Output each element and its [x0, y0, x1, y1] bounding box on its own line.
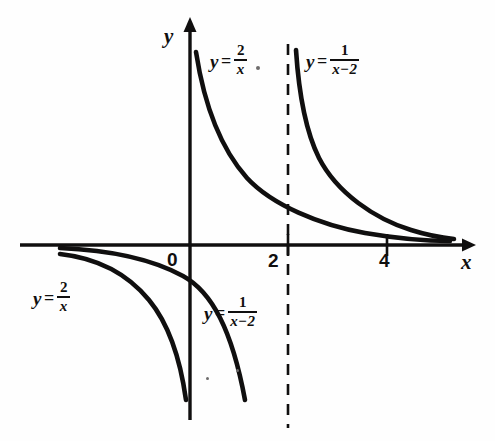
curve-label-2-over-x-upper: y = 2 x	[210, 44, 247, 78]
curve-2-over-x-lower-branch	[60, 254, 186, 400]
curve-label-lhs: y	[204, 304, 213, 323]
fraction: 2 x	[57, 280, 70, 314]
scan-speck	[256, 66, 260, 70]
fraction-numerator: 1	[237, 295, 249, 311]
scan-speck	[236, 369, 239, 372]
curve-label-equals: =	[219, 52, 234, 70]
curve-label-equals: =	[42, 289, 57, 307]
fraction-denominator: x−2	[330, 61, 359, 77]
y-axis-label: y	[164, 26, 173, 47]
fraction-numerator: 1	[339, 43, 351, 59]
x-tick-label-4: 4	[379, 251, 390, 270]
curve-label-lhs: y	[306, 52, 315, 71]
x-axis-label: x	[461, 252, 472, 273]
curve-label-equals: =	[315, 52, 330, 70]
curve-1-over-x-minus-2-upper-branch	[296, 50, 454, 239]
fraction-denominator: x	[58, 298, 70, 314]
fraction-denominator: x	[235, 61, 247, 77]
fraction-numerator: 2	[58, 280, 70, 296]
curve-label-lhs: y	[210, 52, 219, 71]
curve-label-equals: =	[213, 304, 228, 322]
fraction-denominator: x−2	[228, 313, 257, 329]
origin-label: 0	[167, 250, 178, 269]
fraction-numerator: 2	[235, 43, 247, 59]
fraction: 1 x−2	[228, 295, 257, 329]
curve-label-lhs: y	[33, 289, 42, 308]
x-tick-label-2: 2	[268, 251, 279, 270]
y-axis	[184, 17, 197, 420]
fraction: 2 x	[234, 43, 247, 77]
curve-label-1-over-x-minus-2-lower: y = 1 x−2	[204, 296, 257, 330]
curve-label-2-over-x-lower: y = 2 x	[33, 281, 70, 315]
plot-canvas	[0, 0, 495, 441]
rational-function-graph-figure: y x 0 2 4 y = 2 x y = 1 x−2 y = 2 x	[0, 0, 495, 441]
fraction: 1 x−2	[330, 43, 359, 77]
scan-speck	[206, 377, 209, 380]
curve-label-1-over-x-minus-2-upper: y = 1 x−2	[306, 44, 359, 78]
curve-2-over-x-upper-branch	[196, 52, 450, 241]
